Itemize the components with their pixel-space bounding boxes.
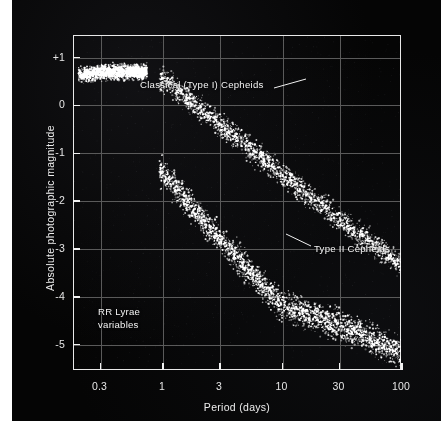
plot-area: Classical (Type I) Cepheids Type II Ceph… — [12, 0, 441, 421]
y-axis-tick-label: 0 — [39, 98, 65, 110]
y-axis-tick-label: -5 — [39, 338, 65, 350]
x-axis-tick — [401, 363, 403, 370]
x-axis-tick-label: 1 — [159, 380, 165, 392]
x-axis-title: Period (days) — [73, 401, 401, 413]
x-axis-tick-label: 0.3 — [92, 380, 107, 392]
y-axis-tick-label: -4 — [39, 290, 65, 302]
y-axis-tick-label: +1 — [39, 51, 65, 63]
y-axis-tick-label: -2 — [39, 194, 65, 206]
figure-panel: Classical (Type I) Cepheids Type II Ceph… — [12, 0, 441, 421]
y-axis-tick-label: -1 — [39, 146, 65, 158]
y-axis-tick-label: -3 — [39, 242, 65, 254]
x-axis-tick-label: 10 — [275, 380, 287, 392]
scatter-canvas — [73, 35, 401, 370]
x-axis-tick-label: 30 — [332, 380, 344, 392]
x-axis-tick-label: 100 — [392, 380, 410, 392]
x-axis-tick-label: 3 — [216, 380, 222, 392]
